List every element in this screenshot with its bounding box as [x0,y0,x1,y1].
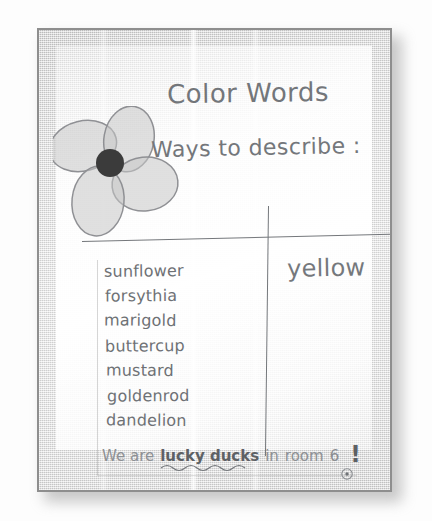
sentence-room-number: 6 [330,447,340,465]
sentence-room-label: room [285,447,324,465]
list-item: sunflower [104,257,264,284]
color-name-heading: yellow [287,253,366,282]
wavy-underline-icon [160,463,246,473]
list-item: dandelion [106,407,266,433]
anchor-chart-poster: Color Words Ways to describe : sunflower… [37,28,392,492]
list-item: mustard [106,358,266,384]
sentence-middle: in [265,447,279,465]
photo-canvas: Color Words Ways to describe : sunflower… [0,0,432,521]
list-item: forsythia [105,283,265,309]
paper-sheet-edge [97,475,357,476]
sentence-exclamation: ! [350,445,361,463]
sentence-lead: We are [102,447,154,465]
page-title: Color Words [167,77,329,109]
horizontal-rule [82,233,392,242]
list-item: buttercup [105,332,265,358]
closing-sentence: We are lucky ducks in room 6 ! [102,444,361,465]
circled-dot-icon [340,467,354,481]
sentence-emphasis-text: lucky ducks [160,447,259,465]
flower-icon [53,106,183,246]
subtitle: Ways to describe : [151,133,361,162]
list-item: marigold [104,307,264,333]
word-list: sunflower forsythia marigold buttercup m… [104,258,264,433]
paper-sheet-edge [97,260,98,475]
list-item: goldenrod [107,382,267,408]
sentence-emphasis: lucky ducks [160,447,259,465]
flower-center-icon [96,149,124,177]
